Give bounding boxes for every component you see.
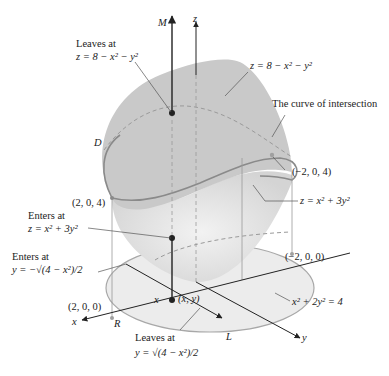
leaves-top-label-line2: z = 8 − x² − y² xyxy=(75,51,139,62)
point-neg2-0-0-label: (−2, 0, 0) xyxy=(285,251,325,263)
enters-z-label-line1: Enters at xyxy=(28,210,65,221)
point-2-0-4-label: (2, 0, 4) xyxy=(72,197,106,209)
point-2-0-4-dot xyxy=(110,196,114,200)
curve-of-intersection-label: The curve of intersection xyxy=(272,98,378,109)
triple-integral-region-diagram: z M x y L Leaves at z = 8 − x² − y² z = … xyxy=(0,0,389,376)
R-label: R xyxy=(113,318,121,329)
point-neg2-0-4-dot xyxy=(270,153,274,157)
x-mark-label: x xyxy=(153,294,159,305)
leaves-top-label-line1: Leaves at xyxy=(76,38,116,49)
point-neg2-0-4-label: (−2, 0, 4) xyxy=(292,166,332,178)
xy-point-label: (x, y) xyxy=(178,293,200,305)
ellipse-equation: x² + 2y² = 4 xyxy=(291,296,344,307)
enters-y-label-line1: Enters at xyxy=(12,251,49,262)
D-label: D xyxy=(93,137,102,148)
L-label: L xyxy=(225,331,232,342)
leaves-y-label-line1: Leaves at xyxy=(135,332,175,343)
y-axis-label: y xyxy=(301,332,307,343)
point-2-0-0-label: (2, 0, 0) xyxy=(68,301,102,313)
top-surface-equation: z = 8 − x² − y² xyxy=(249,60,313,71)
x-axis-label: x xyxy=(71,316,77,327)
leaves-y-label-line2: y = √(4 − x²)/2 xyxy=(134,347,199,359)
enters-z-label-line2: z = x² + 3y² xyxy=(27,223,78,234)
z-axis-label: z xyxy=(192,13,197,24)
M-label: M xyxy=(157,17,168,28)
enters-y-label-line2: y = −√(4 − x²)/2 xyxy=(11,264,83,276)
bottom-surface-equation: z = x² + 3y² xyxy=(299,195,350,206)
